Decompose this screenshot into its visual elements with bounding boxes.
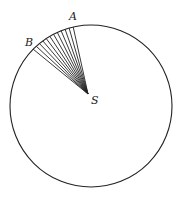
radius-vector-line: [61, 31, 88, 94]
point-b-label: B: [24, 36, 33, 49]
radius-vector-line: [50, 36, 88, 94]
point-s-label: S: [91, 94, 99, 107]
orbit-diagram: A B S: [0, 0, 183, 201]
radius-vector-line: [36, 46, 88, 94]
point-a-label: A: [68, 10, 77, 23]
radius-vector-fan: [33, 27, 88, 94]
